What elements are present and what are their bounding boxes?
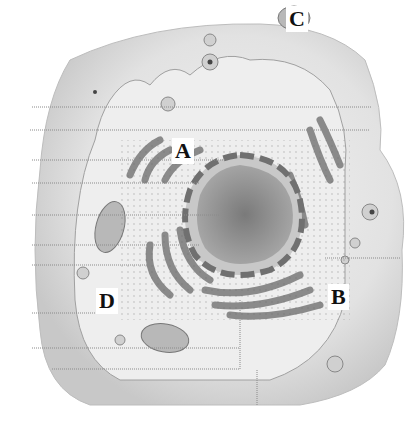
label-a: A (172, 138, 194, 164)
label-d: D (96, 288, 118, 314)
cell-diagram: A B C D (0, 0, 415, 431)
label-c: C (286, 6, 308, 32)
cell-illustration (0, 0, 415, 431)
label-b: B (328, 284, 349, 310)
